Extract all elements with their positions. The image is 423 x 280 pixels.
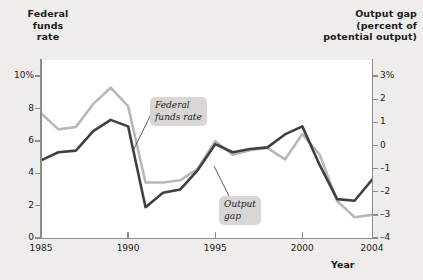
x-axis-title: Year [331, 259, 355, 270]
left-axis-title-line2: funds [8, 20, 88, 32]
left-axis-tick [35, 173, 41, 174]
chart-container: Federal funds rate Output gap (percent o… [0, 0, 423, 280]
x-axis-line [40, 238, 373, 240]
callout-federal-funds-rate: Federal funds rate [150, 97, 207, 126]
right-axis-tick [372, 237, 378, 238]
left-axis-tick-label: 4 [2, 167, 34, 177]
left-axis-tick [35, 108, 41, 109]
right-axis-tick-label: –2 [380, 186, 390, 196]
left-axis-tick [35, 237, 41, 238]
callout-gap-line2: gap [224, 211, 256, 223]
left-axis-title-line3: rate [8, 31, 88, 43]
right-axis-tick-label: 2 [380, 93, 386, 103]
left-axis-tick [35, 140, 41, 141]
left-axis-tick-label: 6 [2, 135, 34, 145]
right-axis-tick-label: –1 [380, 163, 390, 173]
right-axis-title-line1: Output gap [281, 8, 417, 20]
plot-area [41, 60, 372, 238]
callout-gap-line1: Output [224, 199, 256, 211]
right-axis-title-line2: (percent of [281, 20, 417, 32]
left-axis-tick-label: 10% [2, 70, 34, 80]
right-axis-tick-label: 3% [380, 70, 394, 80]
callout-ffr-line1: Federal [155, 100, 202, 112]
callout-ffr-line2: funds rate [155, 112, 202, 124]
x-axis-tick [302, 232, 303, 238]
left-axis-tick-label: 2 [2, 200, 34, 210]
right-axis-tick [372, 168, 378, 169]
x-axis-tick-label: 2000 [279, 243, 325, 253]
left-axis-line [40, 59, 42, 239]
x-axis-tick [215, 232, 216, 238]
right-axis-tick-label: 0 [380, 140, 386, 150]
right-axis-tick-label: –4 [380, 232, 390, 242]
right-axis-tick [372, 122, 378, 123]
callout-output-gap: Output gap [219, 196, 261, 225]
right-axis-line [372, 59, 374, 239]
callout-leader-lines [41, 60, 372, 238]
leader-line-gap [214, 166, 229, 196]
x-axis-tick-label: 1985 [18, 243, 64, 253]
right-axis-tick [372, 99, 378, 100]
x-axis-tick-label: 1990 [105, 243, 151, 253]
left-axis-tick [35, 75, 41, 76]
x-axis-tick-label: 1995 [192, 243, 238, 253]
right-axis-tick [372, 191, 378, 192]
right-axis-title: Output gap (percent of potential output) [281, 8, 417, 43]
left-axis-tick-label: 8 [2, 103, 34, 113]
left-axis-tick-label: 0 [2, 232, 34, 242]
right-axis-tick [372, 145, 378, 146]
right-axis-tick-label: –3 [380, 209, 390, 219]
left-axis-title-line1: Federal [8, 8, 88, 20]
left-axis-tick [35, 205, 41, 206]
right-axis-title-line3: potential output) [281, 31, 417, 43]
right-axis-tick [372, 75, 378, 76]
right-axis-tick-label: 1 [380, 116, 386, 126]
right-axis-tick [372, 214, 378, 215]
left-axis-title: Federal funds rate [8, 8, 88, 43]
x-axis-tick [127, 232, 128, 238]
x-axis-tick-label: 2004 [349, 243, 395, 253]
